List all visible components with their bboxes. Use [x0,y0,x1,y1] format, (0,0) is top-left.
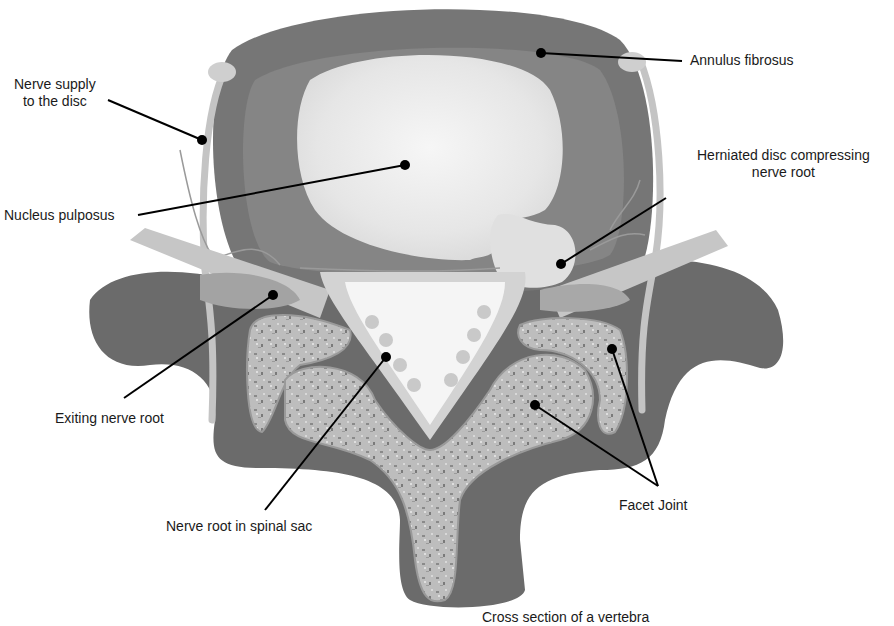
label-facet-joint: Facet Joint [619,497,687,514]
label-nerve-supply: Nerve supply to the disc [14,76,96,110]
label-nerve-supply-line2: to the disc [14,93,96,110]
label-herniated-disc: Herniated disc compressing nerve root [697,147,870,181]
label-exiting-nerve-root: Exiting nerve root [55,410,164,427]
diagram-caption: Cross section of a vertebra [482,609,649,626]
label-herniated-line2: nerve root [697,164,870,181]
label-herniated-line1: Herniated disc compressing [697,147,870,164]
label-nucleus-pulposus: Nucleus pulposus [4,207,115,224]
vertebra-cross-section-diagram [0,0,894,626]
label-nerve-supply-line1: Nerve supply [14,76,96,93]
label-nerve-root-spinal-sac: Nerve root in spinal sac [166,518,312,535]
label-annulus-fibrosus: Annulus fibrosus [690,52,794,69]
